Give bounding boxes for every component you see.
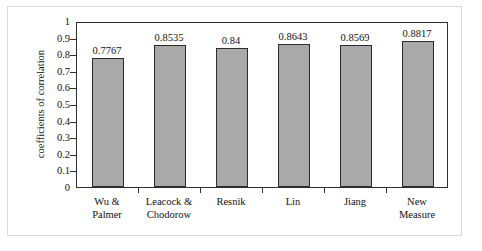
- bar: [340, 45, 372, 187]
- bar-value-label: 0.8535: [139, 32, 199, 43]
- y-axis-tick-label: 0.2: [40, 150, 70, 160]
- bar: [154, 45, 186, 187]
- x-axis-tick-marks: [76, 188, 448, 195]
- bar-value-label: 0.7767: [77, 45, 137, 56]
- y-axis-tick-label: 0.7: [40, 67, 70, 77]
- bar: [216, 48, 248, 187]
- y-axis-tick-label: 0: [40, 183, 70, 193]
- x-axis-category-label-line: Measure: [377, 208, 457, 221]
- y-axis-tick-label: 0.4: [40, 117, 70, 127]
- y-axis-tick-label: 0.1: [40, 166, 70, 176]
- x-axis-tick-mark: [138, 188, 139, 193]
- x-axis-tick-mark: [262, 188, 263, 193]
- y-axis-tick-label: 0.6: [40, 83, 70, 93]
- y-axis-tick-labels: 10.90.80.70.60.50.40.30.20.10: [40, 22, 70, 188]
- y-axis-tick-label: 0.9: [40, 34, 70, 44]
- x-axis-category-label-line: Chodorow: [129, 208, 209, 221]
- x-axis-tick-mark: [386, 188, 387, 193]
- bar-chart: coefficients of correlation 10.90.80.70.…: [0, 0, 482, 251]
- y-axis-tick-label: 0.3: [40, 133, 70, 143]
- bar-value-label: 0.8569: [325, 32, 385, 43]
- x-axis-category-label: NewMeasure: [377, 195, 457, 221]
- bar: [92, 58, 124, 187]
- bar-value-label: 0.8817: [387, 28, 447, 39]
- x-axis-category-labels: Wu &PalmerLeacock &ChodorowResnikLinJian…: [76, 195, 448, 235]
- x-axis-tick-mark: [324, 188, 325, 193]
- bar: [278, 44, 310, 187]
- y-axis-tick-label: 1: [40, 17, 70, 27]
- x-axis-tick-mark: [200, 188, 201, 193]
- y-axis-tick-label: 0.8: [40, 50, 70, 60]
- bar: [402, 41, 434, 187]
- bar-value-label: 0.84: [201, 35, 261, 46]
- bar-value-label: 0.8643: [263, 31, 323, 42]
- x-axis-category-label-line: New: [377, 195, 457, 208]
- y-axis-tick-label: 0.5: [40, 100, 70, 110]
